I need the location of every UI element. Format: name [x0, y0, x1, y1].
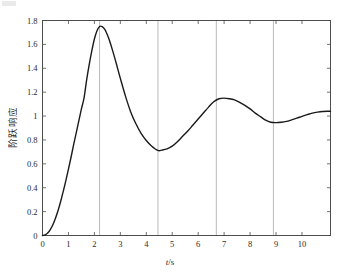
step-response-figure: 012345678910 00.20.40.60.811.21.41.61.8 …	[0, 0, 341, 276]
x-tick-label-10: 10	[298, 239, 307, 249]
y-tick-label-5: 1	[33, 111, 37, 121]
x-tick-label-8: 8	[248, 239, 252, 249]
x-axis-title: t/s	[166, 257, 175, 267]
y-axis-ticks	[43, 21, 331, 236]
svg-text:阶跃响应: 阶跃响应	[7, 106, 18, 148]
x-axis-tick-labels: 012345678910	[40, 239, 306, 249]
x-tick-label-6: 6	[196, 239, 200, 249]
y-tick-label-8: 1.6	[27, 39, 38, 49]
step-response-chart: 012345678910 00.20.40.60.811.21.41.61.8 …	[0, 0, 341, 276]
y-axis-title: 阶跃响应	[7, 106, 18, 148]
y-axis-tick-labels: 00.20.40.60.811.21.41.61.8	[27, 16, 38, 241]
x-axis-ticks	[43, 21, 302, 236]
x-tick-label-2: 2	[92, 239, 96, 249]
y-tick-label-4: 0.8	[27, 135, 38, 145]
axes-frame	[43, 21, 331, 236]
y-tick-label-7: 1.4	[27, 63, 38, 73]
series-step-response	[43, 26, 331, 235]
plot-frame	[43, 21, 331, 236]
y-tick-label-0: 0	[33, 231, 37, 241]
y-tick-label-2: 0.4	[27, 183, 38, 193]
curve-0	[43, 26, 331, 235]
y-tick-label-3: 0.6	[27, 159, 38, 169]
x-tick-label-1: 1	[66, 239, 70, 249]
grid-lines	[100, 21, 274, 236]
x-tick-label-4: 4	[144, 239, 149, 249]
svg-text:t/s: t/s	[166, 257, 175, 267]
x-tick-label-7: 7	[222, 239, 226, 249]
x-tick-label-0: 0	[40, 239, 44, 249]
y-tick-label-1: 0.2	[27, 207, 38, 217]
y-tick-label-6: 1.2	[27, 87, 38, 97]
y-tick-label-9: 1.8	[27, 16, 38, 26]
x-axis-title-unit: /s	[168, 257, 175, 267]
x-tick-label-5: 5	[170, 239, 174, 249]
x-tick-label-3: 3	[118, 239, 122, 249]
x-tick-label-9: 9	[274, 239, 278, 249]
